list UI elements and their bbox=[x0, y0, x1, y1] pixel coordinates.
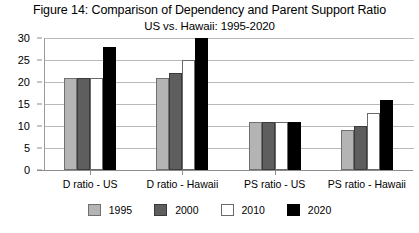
y-tick-mark bbox=[37, 38, 42, 39]
y-tick-mark bbox=[37, 104, 42, 105]
category-label: D ratio - Hawaii bbox=[136, 178, 228, 191]
legend-swatch-1995 bbox=[88, 204, 101, 216]
category-label: D ratio - US bbox=[44, 178, 136, 191]
bar-group bbox=[136, 38, 228, 170]
bar-2020 bbox=[288, 122, 301, 170]
bar-1995 bbox=[341, 130, 354, 170]
legend-swatch-2010 bbox=[221, 204, 234, 216]
y-tick-label: 20 bbox=[18, 77, 30, 88]
bar-2000 bbox=[77, 78, 90, 170]
legend-label: 2020 bbox=[308, 204, 331, 216]
chart-title: Figure 14: Comparison of Dependency and … bbox=[0, 2, 419, 18]
legend-item-2010: 2010 bbox=[221, 204, 265, 216]
y-tick-mark bbox=[37, 148, 42, 149]
legend-item-2020: 2020 bbox=[287, 204, 331, 216]
bar-group bbox=[44, 38, 136, 170]
bar-2020 bbox=[103, 47, 116, 170]
legend-swatch-2000 bbox=[154, 204, 167, 216]
bar-1995 bbox=[64, 78, 77, 170]
category-label: PS ratio - Hawaii bbox=[321, 178, 413, 191]
bar-group bbox=[321, 38, 413, 170]
y-tick-mark bbox=[37, 170, 42, 171]
y-tick-label: 0 bbox=[24, 165, 30, 176]
bar-2000 bbox=[354, 126, 367, 170]
category-labels: D ratio - USD ratio - HawaiiPS ratio - U… bbox=[44, 178, 413, 191]
bar-2010 bbox=[182, 60, 195, 170]
y-tick-mark bbox=[37, 60, 42, 61]
y-tick-mark bbox=[37, 126, 42, 127]
bar-groups bbox=[44, 38, 413, 170]
legend-swatch-2020 bbox=[287, 204, 300, 216]
plot-wrap: 302520151050 bbox=[0, 38, 419, 174]
bar-2020 bbox=[195, 38, 208, 170]
legend-label: 2000 bbox=[175, 204, 198, 216]
x-axis-line bbox=[37, 170, 413, 171]
bar-group bbox=[229, 38, 321, 170]
chart-subtitle: US vs. Hawaii: 1995-2020 bbox=[0, 18, 419, 34]
y-tick-mark bbox=[37, 82, 42, 83]
legend-label: 2010 bbox=[242, 204, 265, 216]
bar-2010 bbox=[90, 78, 103, 170]
bar-2010 bbox=[367, 113, 380, 170]
legend-item-1995: 1995 bbox=[88, 204, 132, 216]
y-tick-label: 30 bbox=[18, 33, 30, 44]
y-tick-label: 25 bbox=[18, 55, 30, 66]
bar-2000 bbox=[262, 122, 275, 170]
figure-bar-chart: Figure 14: Comparison of Dependency and … bbox=[0, 0, 419, 233]
category-label: PS ratio - US bbox=[229, 178, 321, 191]
y-tick-label: 10 bbox=[18, 121, 30, 132]
y-tick-label: 5 bbox=[24, 143, 30, 154]
bar-2020 bbox=[380, 100, 393, 170]
title-block: Figure 14: Comparison of Dependency and … bbox=[0, 2, 419, 34]
legend-label: 1995 bbox=[109, 204, 132, 216]
y-tick-label: 15 bbox=[18, 99, 30, 110]
legend-item-2000: 2000 bbox=[154, 204, 198, 216]
bar-1995 bbox=[249, 122, 262, 170]
legend: 1995200020102020 bbox=[0, 204, 419, 216]
bar-2010 bbox=[275, 122, 288, 170]
y-axis: 302520151050 bbox=[0, 38, 36, 170]
bar-1995 bbox=[156, 78, 169, 170]
bar-2000 bbox=[169, 73, 182, 170]
